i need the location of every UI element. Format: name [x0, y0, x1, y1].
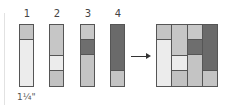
- strip-segment: [203, 25, 217, 71]
- strip-segment: [172, 71, 186, 86]
- combined-block: [156, 24, 218, 87]
- strip-segment: [81, 25, 94, 40]
- strip-segment: [50, 56, 63, 71]
- strip-segment: [111, 71, 124, 86]
- strip-segment: [20, 25, 33, 40]
- strip-label-4: 4: [110, 8, 126, 19]
- strip-segment: [157, 40, 171, 86]
- strip-width-label: 1¼": [17, 92, 36, 102]
- block-column-2: [172, 25, 187, 86]
- strip-segment: [50, 25, 63, 56]
- right-arrow-icon: [131, 56, 149, 57]
- strip-segment: [157, 25, 171, 40]
- strip-segment: [20, 40, 33, 86]
- strip-segment: [188, 55, 202, 86]
- strip-segment: [188, 25, 202, 40]
- strip-segment: [111, 25, 124, 71]
- strip-segment: [203, 71, 217, 86]
- strip-label-2: 2: [49, 8, 65, 19]
- block-column-3: [188, 25, 203, 86]
- strip-segment: [50, 71, 63, 86]
- strip-2: [49, 24, 64, 87]
- block-column-1: [157, 25, 172, 86]
- strip-3: [80, 24, 95, 87]
- strip-segment: [81, 40, 94, 55]
- strip-segment: [172, 25, 186, 56]
- strip-4: [110, 24, 125, 87]
- divider-line: [4, 13, 5, 105]
- strip-segment: [188, 40, 202, 55]
- strip-segment: [172, 56, 186, 71]
- strip-label-3: 3: [80, 8, 96, 19]
- strip-segment: [81, 55, 94, 86]
- strip-label-1: 1: [19, 8, 35, 19]
- strip-1: [19, 24, 34, 87]
- block-column-4: [203, 25, 217, 86]
